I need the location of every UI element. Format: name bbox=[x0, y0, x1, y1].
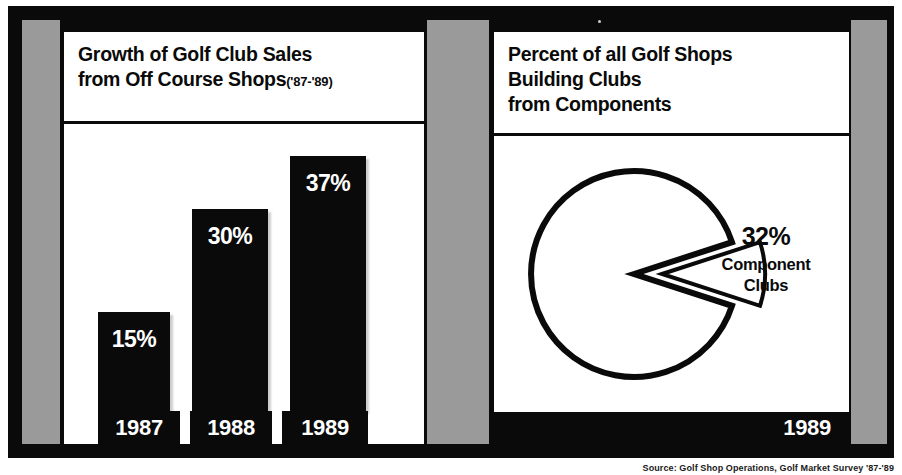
decorative-slab-left bbox=[22, 20, 60, 444]
bar-value-1987: 15% bbox=[98, 326, 170, 353]
decorative-slab-right bbox=[851, 20, 887, 444]
bar-chart-plot-area: 15% 30% 37% bbox=[64, 124, 424, 411]
pie-chart-svg bbox=[494, 136, 849, 412]
bar-chart-panel: Growth of Golf Club Sales from Off Cours… bbox=[64, 32, 424, 444]
bar-chart-category-axis: 1987 1988 1989 bbox=[64, 411, 424, 444]
pie-chart-title-line-2: Building Clubs bbox=[508, 67, 837, 92]
bar-1987: 15% bbox=[98, 312, 170, 411]
category-label-1989: 1989 bbox=[282, 411, 368, 444]
pie-chart-title-line-1: Percent of all Golf Shops bbox=[508, 42, 837, 67]
category-label-1988: 1988 bbox=[190, 411, 272, 444]
bar-chart-title-block: Growth of Golf Club Sales from Off Cours… bbox=[64, 32, 424, 124]
pie-chart-title-line-3: from Components bbox=[508, 92, 837, 117]
pie-chart-year-label: 1989 bbox=[783, 415, 831, 441]
bar-chart-title-line-2-main: from Off Course Shops bbox=[78, 68, 286, 90]
bar-value-1988: 30% bbox=[192, 223, 268, 250]
category-label-1987: 1987 bbox=[98, 411, 180, 444]
pie-chart-title-block: Percent of all Golf Shops Building Clubs… bbox=[494, 32, 849, 136]
pie-chart-plot-area: 32% Component Clubs bbox=[494, 136, 849, 412]
print-speck-artifact bbox=[598, 20, 601, 23]
pie-chart-panel: Percent of all Golf Shops Building Clubs… bbox=[494, 32, 849, 444]
source-caption: Source: Golf Shop Operations, Golf Marke… bbox=[643, 463, 894, 473]
bar-chart-title-line-1: Growth of Golf Club Sales bbox=[78, 42, 412, 67]
bar-value-1989: 37% bbox=[290, 170, 366, 197]
infographic-canvas: Growth of Golf Club Sales from Off Cours… bbox=[0, 0, 902, 475]
bar-chart-title-line-2: from Off Course Shops('87-'89) bbox=[78, 67, 412, 94]
decorative-slab-middle bbox=[427, 20, 489, 444]
bar-chart-body: 15% 30% 37% 1987 1988 1989 bbox=[64, 124, 424, 444]
bar-1988: 30% bbox=[192, 209, 268, 411]
bar-1989: 37% bbox=[290, 156, 366, 411]
bar-chart-title-year-range: ('87-'89) bbox=[286, 74, 332, 89]
pie-chart-body: 32% Component Clubs 1989 bbox=[494, 136, 849, 444]
pie-chart-year-footer: 1989 bbox=[494, 412, 849, 444]
